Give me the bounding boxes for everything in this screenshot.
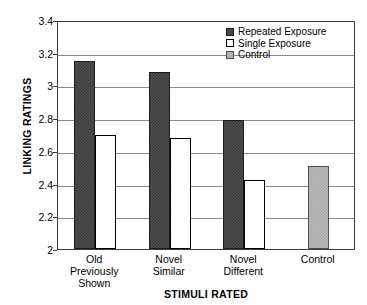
- legend-item-control: Control: [226, 49, 326, 61]
- legend-label-repeated-exposure: Repeated Exposure: [238, 26, 326, 38]
- legend-swatch-single-exposure: [226, 39, 234, 47]
- y-axis-tick-mark: [53, 250, 57, 251]
- y-axis-tick-label: 2: [13, 245, 53, 255]
- y-axis-tick-label: 2.6: [13, 147, 53, 157]
- bar-single: [244, 180, 265, 249]
- y-axis-tick-label: 3.2: [13, 49, 53, 59]
- legend: Repeated Exposure Single Exposure Contro…: [226, 26, 326, 61]
- y-axis-tick-label: 3.4: [13, 16, 53, 26]
- x-axis-category-label: Control: [281, 253, 356, 265]
- gridline: [58, 87, 354, 88]
- bar-single: [170, 138, 191, 249]
- y-axis-tick-label: 2.8: [13, 114, 53, 124]
- legend-label-control: Control: [238, 49, 270, 61]
- x-axis-category-label: Novel Similar: [132, 253, 207, 277]
- y-axis-title: LINKING RATINGS: [21, 51, 33, 201]
- gridline: [58, 120, 354, 121]
- bar-control: [308, 166, 329, 249]
- legend-swatch-control: [226, 51, 234, 59]
- y-axis-tick-label: 2.4: [13, 180, 53, 190]
- bar-single: [95, 135, 116, 250]
- y-axis-tick-label: 2.2: [13, 212, 53, 222]
- bar-repeated: [223, 120, 244, 249]
- x-axis-category-label: Novel Different: [206, 253, 281, 277]
- bar-repeated: [149, 72, 170, 249]
- y-axis-tick-label: 3: [13, 81, 53, 91]
- x-axis-category-label: Old Previously Shown: [57, 253, 132, 289]
- legend-item-single-exposure: Single Exposure: [226, 38, 326, 50]
- legend-label-single-exposure: Single Exposure: [238, 38, 311, 50]
- x-axis-title: STIMULI RATED: [57, 288, 355, 300]
- legend-swatch-repeated-exposure: [226, 28, 234, 36]
- bar-repeated: [74, 61, 95, 249]
- legend-item-repeated-exposure: Repeated Exposure: [226, 26, 326, 38]
- bar-chart: LINKING RATINGS 22.22.42.62.833.23.4 Rep…: [0, 0, 367, 305]
